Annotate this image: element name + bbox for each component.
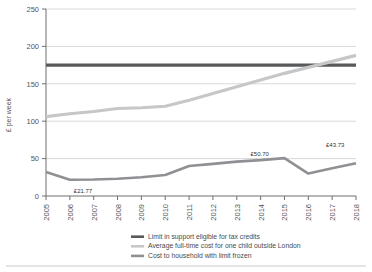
data-labels: £21.77£50.70£43.73: [74, 142, 345, 193]
axis-lines: [46, 9, 356, 196]
x-tick-label: 2015: [280, 204, 289, 221]
legend-label: Average full-time cost for one child out…: [148, 242, 301, 250]
line-chart: 050100150200250 200520062007200820092010…: [0, 0, 372, 272]
x-axis-ticks: 2005200620072008200920102011201220132014…: [42, 196, 361, 221]
data-label: £21.77: [74, 188, 93, 194]
legend-swatch: [131, 255, 144, 258]
x-tick-label: 2008: [114, 204, 123, 221]
x-tick-label: 2016: [304, 204, 313, 221]
series-line-3: [46, 158, 356, 180]
data-label: £50.70: [250, 151, 269, 157]
y-axis-ticks: 050100150200250: [26, 5, 46, 201]
chart-legend: Limit in support eligible for tax credit…: [131, 233, 301, 259]
x-tick-label: 2011: [185, 204, 194, 220]
x-tick-label: 2007: [90, 204, 99, 221]
y-axis-label: £ per week: [5, 97, 13, 132]
x-tick-label: 2018: [352, 204, 361, 221]
y-tick-label: 50: [31, 154, 39, 163]
legend-label: Limit in support eligible for tax credit…: [148, 233, 260, 241]
y-tick-label: 250: [26, 5, 39, 14]
legend-label: Cost to household with limit frozen: [148, 252, 252, 259]
y-axis-label-text: £ per week: [5, 97, 13, 132]
legend-swatch: [131, 245, 144, 248]
data-label: £43.73: [326, 142, 345, 148]
x-tick-label: 2013: [233, 204, 242, 221]
legend-swatch: [131, 235, 144, 238]
chart-container: 050100150200250 200520062007200820092010…: [0, 0, 372, 272]
x-tick-label: 2006: [66, 204, 75, 221]
y-tick-label: 200: [26, 42, 39, 51]
x-tick-label: 2009: [137, 204, 146, 221]
x-tick-label: 2010: [161, 204, 170, 221]
gridlines: [46, 9, 356, 159]
y-tick-label: 100: [26, 117, 39, 126]
series-lines: [46, 55, 356, 179]
x-tick-label: 2005: [42, 204, 51, 221]
y-tick-label: 0: [35, 192, 39, 201]
x-tick-label: 2012: [209, 204, 218, 221]
x-tick-label: 2014: [257, 204, 266, 221]
x-tick-label: 2017: [328, 204, 337, 221]
y-tick-label: 150: [26, 80, 39, 89]
